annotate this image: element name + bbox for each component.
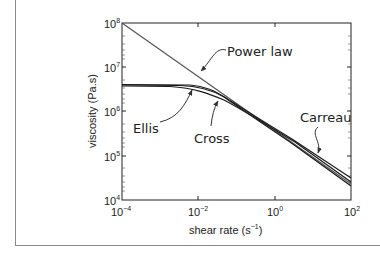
power-law-arrow: [201, 50, 226, 71]
x-axis-label: shear rate (s−1): [189, 223, 262, 236]
x-tick-1e-2: 10−2: [188, 205, 208, 218]
ellis-label: Ellis: [133, 121, 159, 136]
y-tick-labels: 108 107 106 105 104: [104, 17, 120, 207]
y-tick-1e6: 106: [104, 105, 120, 118]
power-law-label: Power law: [227, 44, 293, 59]
carreau-arrow: [315, 127, 319, 153]
annotations: Power law Ellis Cross Carreau: [133, 44, 351, 153]
cross-label: Cross: [194, 131, 230, 146]
y-axis-label: viscosity (Pa.s): [86, 74, 98, 148]
x-tick-1e2: 102: [344, 205, 360, 218]
y-tick-1e7: 107: [104, 61, 120, 74]
carreau-label: Carreau: [300, 110, 351, 125]
ellis-arrow: [160, 90, 192, 122]
x-tick-1e0: 100: [267, 205, 283, 218]
y-tick-1e8: 108: [104, 17, 120, 30]
x-tick-labels: 10−4 10−2 100 102: [111, 205, 360, 218]
y-tick-1e5: 105: [104, 150, 120, 163]
cross-arrow: [211, 101, 218, 126]
x-tick-1e-4: 10−4: [111, 205, 131, 218]
viscosity-chart: 108 107 106 105 104 10−4 10−2 100 102 sh…: [0, 0, 380, 256]
